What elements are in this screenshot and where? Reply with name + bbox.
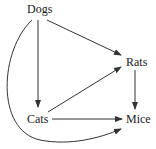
edge-dogs-rats (47, 20, 121, 55)
node-dogs: Dogs (27, 3, 52, 15)
edge-dogs-mice (7, 20, 121, 142)
graph-edges (0, 0, 156, 149)
node-cats: Cats (27, 113, 48, 125)
node-mice: Mice (126, 113, 151, 125)
node-rats: Rats (126, 56, 147, 68)
edge-cats-rats (48, 67, 121, 112)
